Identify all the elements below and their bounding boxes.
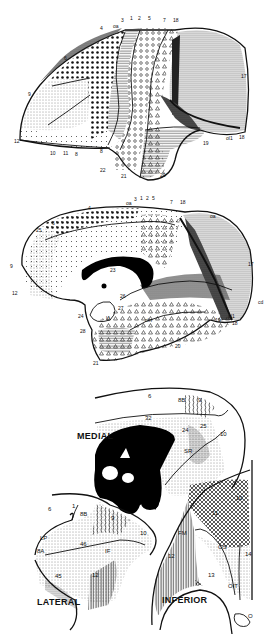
svg-text:24: 24 <box>182 427 189 433</box>
svg-text:8B: 8B <box>80 511 87 517</box>
lateral-hemisphere-panel: 4 oa 3 1 2 5 7 18 6 9 12 10 11 8 8 22 21… <box>14 15 249 180</box>
svg-text:11: 11 <box>212 510 219 516</box>
inferior-area-11 <box>188 480 250 548</box>
svg-text:18: 18 <box>239 134 245 140</box>
medial-hole-1 <box>102 466 118 480</box>
svg-text:11: 11 <box>63 150 68 156</box>
svg-text:8: 8 <box>75 151 78 157</box>
svg-text:27: 27 <box>118 305 124 311</box>
svg-text:cd: cd <box>258 299 264 305</box>
svg-text:6: 6 <box>148 393 152 399</box>
svg-text:1: 1 <box>130 15 133 21</box>
svg-text:1: 1 <box>140 195 143 201</box>
svg-text:OS: OS <box>218 544 227 550</box>
medial-hemisphere-panel: 4 oa 3 1 2 5 7 18 6 25 9 12 23 24 26 27 … <box>10 195 264 366</box>
svg-text:8: 8 <box>100 148 103 154</box>
svg-text:SR: SR <box>184 448 193 454</box>
svg-text:17: 17 <box>241 73 247 79</box>
svg-text:6: 6 <box>52 220 55 226</box>
svg-text:18: 18 <box>232 320 238 326</box>
svg-text:12: 12 <box>168 553 175 559</box>
medial-blob-1 <box>121 491 135 501</box>
svg-text:LP: LP <box>40 535 47 541</box>
svg-text:21: 21 <box>93 360 99 366</box>
svg-text:28: 28 <box>80 328 86 334</box>
svg-text:oa: oa <box>210 213 216 219</box>
svg-text:18: 18 <box>180 199 186 205</box>
svg-text:9: 9 <box>28 91 31 97</box>
svg-text:FM: FM <box>178 530 187 536</box>
svg-text:10: 10 <box>236 495 243 501</box>
svg-text:20: 20 <box>175 343 181 349</box>
svg-text:25: 25 <box>200 423 207 429</box>
svg-text:4: 4 <box>100 25 103 31</box>
svg-text:12: 12 <box>12 290 18 296</box>
svg-text:45: 45 <box>55 573 62 579</box>
svg-text:9: 9 <box>10 263 13 269</box>
svg-text:8B: 8B <box>178 397 185 403</box>
svg-text:12: 12 <box>14 138 20 144</box>
svg-text:14: 14 <box>245 551 252 557</box>
svg-text:21: 21 <box>121 173 127 179</box>
svg-text:ol1: ol1 <box>226 135 233 141</box>
svg-text:7: 7 <box>163 17 166 23</box>
svg-text:oln: oln <box>145 317 152 323</box>
area-9-region <box>20 78 90 130</box>
brain-cortex-diagram: 4 oa 3 1 2 5 7 18 6 9 12 10 11 8 8 22 21… <box>0 0 275 634</box>
svg-text:3: 3 <box>121 17 124 23</box>
svg-text:U: U <box>106 315 110 321</box>
svg-text:6: 6 <box>64 55 67 61</box>
svg-text:10: 10 <box>140 530 147 536</box>
corpus-callosum <box>82 257 154 289</box>
svg-text:5: 5 <box>152 195 155 201</box>
svg-text:3: 3 <box>134 196 137 202</box>
temporal-striped-region <box>140 128 204 178</box>
svg-text:O: O <box>248 613 253 619</box>
svg-text:20: 20 <box>160 172 166 178</box>
svg-text:5: 5 <box>148 15 151 21</box>
svg-text:25: 25 <box>36 227 42 233</box>
svg-text:23: 23 <box>110 267 116 273</box>
svg-text:19: 19 <box>215 317 221 323</box>
anterior-commissure-dot <box>102 284 107 289</box>
svg-text:oa: oa <box>113 23 119 29</box>
svg-text:19: 19 <box>203 140 209 146</box>
svg-text:26: 26 <box>120 293 126 299</box>
svg-text:18: 18 <box>173 17 179 23</box>
medial-title: MEDIAL <box>77 431 113 441</box>
svg-text:17: 17 <box>248 261 254 267</box>
svg-text:ol1: ol1 <box>228 313 235 319</box>
svg-text:6: 6 <box>48 506 52 512</box>
medial-blob-2 <box>141 496 159 510</box>
lateral-title: LATERAL <box>37 597 81 607</box>
svg-text:oa: oa <box>126 200 132 206</box>
svg-text:22: 22 <box>100 167 106 173</box>
medial-hole-2 <box>122 473 134 483</box>
svg-text:2: 2 <box>146 195 149 201</box>
svg-text:12: 12 <box>92 572 99 578</box>
svg-text:IF: IF <box>105 548 111 554</box>
entorhinal-striped <box>98 328 135 354</box>
frontal-lateral-panel: 6 8B 9 10 LP 8A 46 IF 45 12 1 LATERAL <box>35 494 156 630</box>
svg-text:10: 10 <box>220 431 227 437</box>
svg-text:1: 1 <box>72 503 76 509</box>
svg-text:24: 24 <box>78 313 84 319</box>
svg-text:7: 7 <box>170 199 173 205</box>
inferior-title: INFERIOR <box>162 595 208 605</box>
svg-text:46: 46 <box>80 541 87 547</box>
svg-text:10: 10 <box>50 150 56 156</box>
svg-text:2: 2 <box>138 15 141 21</box>
svg-text:4: 4 <box>88 205 91 211</box>
svg-text:13: 13 <box>208 572 215 578</box>
svg-text:OIT: OIT <box>228 583 238 589</box>
svg-text:8A: 8A <box>37 548 44 554</box>
hippocampal-dark-band <box>140 274 230 300</box>
svg-text:32: 32 <box>145 415 152 421</box>
